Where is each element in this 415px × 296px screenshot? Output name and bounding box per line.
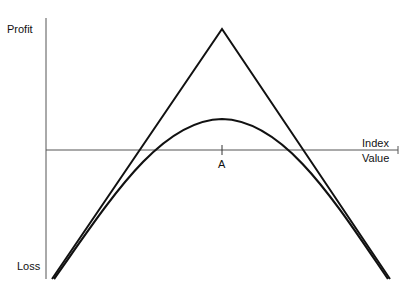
x-axis-label-value: Value [362,152,389,164]
curved-payoff-line [54,119,388,279]
profit-label: Profit [7,23,33,35]
x-axis-label-index: Index [362,137,389,149]
tick-label-a: A [218,158,225,170]
payoff-diagram [0,0,415,296]
loss-label: Loss [17,260,40,272]
triangle-payoff-line [52,29,390,279]
